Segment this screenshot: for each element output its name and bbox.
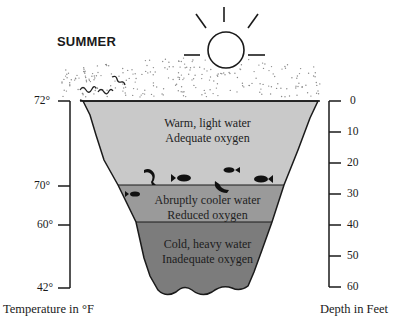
- temp-tick-72: 72°: [34, 94, 50, 106]
- layer-thermocline-line1: Abruptly cooler water: [140, 193, 275, 208]
- layer-epilimnion-line2: Adequate oxygen: [150, 131, 265, 146]
- depth-tick-50: 50: [347, 249, 359, 261]
- sun-icon: [184, 7, 265, 68]
- depth-axis-title: Depth in Feet: [320, 302, 388, 317]
- temp-tick-60: 60°: [37, 218, 53, 230]
- layer-epilimnion-line1: Warm, light water: [150, 116, 265, 131]
- layer-epilimnion-label: Warm, light water Adequate oxygen: [150, 116, 265, 146]
- depth-tick-20: 20: [347, 156, 359, 168]
- lake-stratification-diagram: SUMMER Warm, light water Adequate oxygen…: [0, 0, 410, 331]
- depth-tick-60: 60: [347, 280, 359, 292]
- depth-tick-10: 10: [347, 125, 359, 137]
- depth-tick-0: 0: [350, 94, 356, 106]
- temp-tick-42: 42°: [37, 281, 53, 293]
- layer-thermocline-label: Abruptly cooler water Reduced oxygen: [140, 193, 275, 223]
- season-title: SUMMER: [57, 34, 116, 49]
- layer-hypolimnion-line1: Cold, heavy water: [150, 237, 265, 252]
- layer-hypolimnion-label: Cold, heavy water Inadequate oxygen: [150, 237, 265, 267]
- temperature-axis-title: Temperature in °F: [3, 302, 94, 317]
- depth-tick-30: 30: [347, 187, 359, 199]
- depth-axis: [329, 101, 341, 287]
- temp-tick-70: 70°: [34, 179, 50, 191]
- wind-wave-icon: [80, 76, 125, 93]
- layer-hypolimnion-line2: Inadequate oxygen: [150, 252, 265, 267]
- temperature-axis: [58, 101, 70, 288]
- depth-tick-40: 40: [347, 218, 359, 230]
- air-stipple: [61, 57, 320, 97]
- layer-thermocline-line2: Reduced oxygen: [140, 208, 275, 223]
